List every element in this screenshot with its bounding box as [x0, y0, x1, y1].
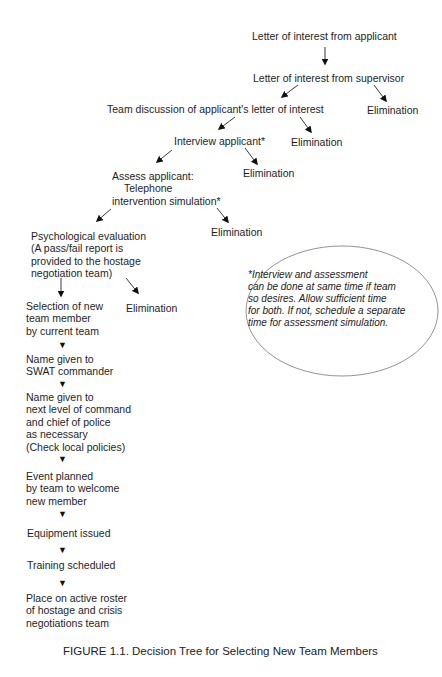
assess-line-1: Assess applicant: [112, 170, 221, 182]
node-psych-eval: Psychological evaluation (A pass/fail re… [31, 230, 146, 280]
next-level-line-1: Name given to [26, 391, 131, 403]
step-arrow-5: ▼ [58, 546, 67, 555]
node-selection: Selection of new team member by current … [26, 300, 103, 337]
next-level-line-2: next level of command [26, 403, 131, 415]
next-level-line-4: as necessary [26, 428, 131, 440]
note-line-2: can be done at same time if team [248, 281, 405, 293]
event-line-3: new member [26, 495, 119, 507]
psych-line-4: negotiation team) [31, 267, 146, 279]
swat-line-1: Name given to [26, 353, 113, 365]
step-arrow-6: ▼ [58, 579, 67, 588]
step-arrow-1: ▼ [58, 341, 67, 350]
psych-line-3: provided to the hostage [31, 255, 146, 267]
psych-line-1: Psychological evaluation [31, 230, 146, 242]
edge-layer [0, 0, 442, 677]
selection-line-1: Selection of new [26, 300, 103, 312]
elimination-after-psych-eval: Elimination [126, 302, 177, 314]
roster-line-3: negotiations team [26, 617, 127, 629]
step-arrow-4: ▼ [58, 510, 67, 519]
elimination-after-supervisor: Elimination [367, 104, 418, 116]
event-line-1: Event planned [26, 470, 119, 482]
figure-caption: FIGURE 1.1. Decision Tree for Selecting … [63, 645, 378, 657]
event-line-2: by team to welcome [26, 482, 119, 494]
node-letter-supervisor: Letter of interest from supervisor [253, 72, 404, 84]
node-interview: Interview applicant* [174, 135, 265, 147]
elimination-after-team-discussion: Elimination [291, 136, 342, 148]
note-line-4: for both. If not, schedule a separate [248, 305, 405, 317]
node-next-level: Name given to next level of command and … [26, 391, 131, 453]
node-equipment: Equipment issued [27, 527, 110, 539]
arrow-interview-to-assess [157, 150, 172, 162]
node-training: Training scheduled [27, 559, 115, 571]
assess-line-3: intervention simulation* [112, 195, 221, 207]
arrow-supervisor-to-team-discussion [282, 85, 298, 97]
arrow-assess-to-psych-eval [97, 209, 111, 221]
psych-line-2: (A pass/fail report is [31, 242, 146, 254]
next-level-line-3: and chief of police [26, 416, 131, 428]
arrow-team-discussion-to-elimination [300, 117, 311, 132]
node-swat: Name given to SWAT commander [26, 353, 113, 378]
node-event: Event planned by team to welcome new mem… [26, 470, 119, 507]
note-line-3: so desires. Allow sufficient time [248, 293, 405, 305]
step-arrow-3: ▼ [58, 455, 67, 464]
node-team-discussion: Team discussion of applicant's letter of… [107, 103, 324, 115]
node-letter-applicant: Letter of interest from applicant [252, 30, 397, 42]
step-arrow-2: ▼ [58, 380, 67, 389]
arrow-interview-to-elimination [245, 148, 257, 164]
assess-line-2: Telephone [112, 182, 221, 194]
selection-line-2: team member [26, 312, 103, 324]
arrow-supervisor-to-elimination [374, 85, 386, 101]
arrow-psych-eval-to-elimination [126, 278, 138, 293]
roster-line-1: Place on active roster [26, 592, 127, 604]
elimination-after-assess: Elimination [211, 226, 262, 238]
selection-line-3: by current team [26, 325, 103, 337]
swat-line-2: SWAT commander [26, 365, 113, 377]
roster-line-2: of hostage and crisis [26, 604, 127, 616]
node-roster: Place on active roster of hostage and cr… [26, 592, 127, 629]
node-assess: Assess applicant: Telephone intervention… [112, 170, 221, 207]
elimination-after-interview: Elimination [243, 167, 294, 179]
arrow-team-discussion-to-interview [219, 117, 235, 129]
arrow-assess-to-elimination [217, 208, 228, 222]
note-line-1: *Interview and assessment [248, 269, 405, 281]
next-level-line-5: (Check local policies) [26, 441, 131, 453]
note-line-5: time for assessment simulation. [248, 317, 405, 329]
footnote-text: *Interview and assessment can be done at… [248, 269, 405, 329]
